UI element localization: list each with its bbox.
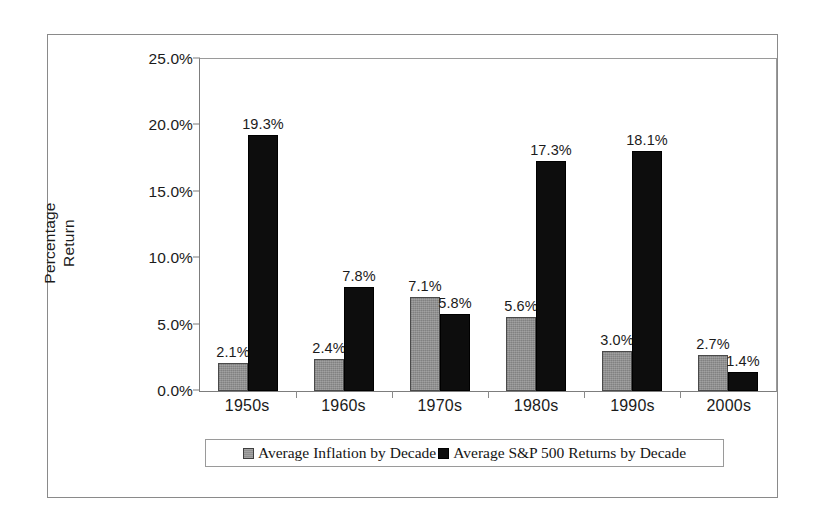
bar-inflation[interactable]: 3.0% — [602, 351, 632, 391]
bar-chart: Percentage Return 0.0%5.0%10.0%15.0%20.0… — [48, 35, 779, 499]
bar-sp500[interactable]: 7.8% — [344, 287, 374, 391]
x-axis-labels: 1950s1960s1970s1980s1990s2000s — [199, 397, 777, 415]
bar-value-label: 1.4% — [726, 353, 759, 369]
bar-sp500[interactable]: 17.3% — [536, 161, 566, 391]
figure-outer-border: Percentage Return 0.0%5.0%10.0%15.0%20.0… — [47, 34, 778, 498]
x-axis-category-label: 1980s — [488, 397, 584, 415]
y-axis-tick-label: 0.0% — [157, 382, 193, 400]
bar-group: 2.4%7.8% — [296, 59, 392, 391]
legend-entry[interactable]: Average Inflation by Decade — [243, 444, 436, 462]
legend-entry[interactable]: Average S&P 500 Returns by Decade — [438, 444, 686, 462]
bar-group: 5.6%17.3% — [488, 59, 584, 391]
y-axis-tick-mark — [193, 390, 200, 391]
legend-label: Average Inflation by Decade — [258, 444, 436, 462]
bar-value-label: 2.7% — [696, 336, 729, 352]
bar-value-label: 17.3% — [530, 142, 572, 158]
bar-value-label: 5.6% — [504, 298, 537, 314]
y-axis-tick-mark — [193, 257, 200, 258]
bar-group: 2.7%1.4% — [680, 59, 776, 391]
bar-pair: 2.4%7.8% — [314, 59, 374, 391]
bar-inflation[interactable]: 5.6% — [506, 317, 536, 391]
x-axis-category-label: 1970s — [392, 397, 488, 415]
bar-pair: 2.7%1.4% — [698, 59, 758, 391]
sp500-swatch — [438, 448, 449, 459]
bar-sp500[interactable]: 5.8% — [440, 314, 470, 391]
y-axis-tick-label: 20.0% — [149, 116, 193, 134]
x-axis-category-label: 1950s — [199, 397, 295, 415]
bar-value-label: 3.0% — [600, 332, 633, 348]
bar-value-label: 18.1% — [626, 132, 668, 148]
y-axis-tick-mark — [193, 323, 200, 324]
bar-value-label: 7.1% — [408, 278, 441, 294]
y-axis-tick-label: 15.0% — [149, 183, 193, 201]
bar-value-label: 2.1% — [216, 344, 249, 360]
bar-inflation[interactable]: 2.4% — [314, 359, 344, 391]
bar-group: 7.1%5.8% — [392, 59, 488, 391]
y-axis-tick-label: 10.0% — [149, 249, 193, 267]
bar-pair: 2.1%19.3% — [218, 59, 278, 391]
bar-inflation[interactable]: 2.7% — [698, 355, 728, 391]
bar-sp500[interactable]: 18.1% — [632, 151, 662, 391]
y-axis-tick-mark — [193, 124, 200, 125]
bar-sp500[interactable]: 1.4% — [728, 372, 758, 391]
x-axis-category-label: 1960s — [295, 397, 391, 415]
bar-value-label: 2.4% — [312, 340, 345, 356]
x-axis-category-label: 1990s — [584, 397, 680, 415]
inflation-swatch — [243, 448, 254, 459]
plot-area: 0.0%5.0%10.0%15.0%20.0%25.0% 2.1%19.3%2.… — [199, 58, 777, 392]
y-axis-tick-mark — [193, 58, 200, 59]
bar-group: 2.1%19.3% — [200, 59, 296, 391]
x-axis-category-label: 2000s — [681, 397, 777, 415]
y-axis-tick-label: 5.0% — [157, 316, 193, 334]
bar-group: 3.0%18.1% — [584, 59, 680, 391]
bar-pair: 5.6%17.3% — [506, 59, 566, 391]
bar-pair: 3.0%18.1% — [602, 59, 662, 391]
bar-value-label: 7.8% — [342, 268, 375, 284]
bar-value-label: 5.8% — [438, 295, 471, 311]
chart-legend: Average Inflation by DecadeAverage S&P 5… — [205, 439, 724, 467]
legend-label: Average S&P 500 Returns by Decade — [453, 444, 686, 462]
bar-pair: 7.1%5.8% — [410, 59, 470, 391]
y-axis-tick-mark — [193, 190, 200, 191]
bars-layer: 2.1%19.3%2.4%7.8%7.1%5.8%5.6%17.3%3.0%18… — [200, 59, 776, 391]
bar-value-label: 19.3% — [242, 116, 284, 132]
y-axis-title: Percentage Return — [40, 153, 78, 333]
bar-inflation[interactable]: 7.1% — [410, 297, 440, 391]
bar-sp500[interactable]: 19.3% — [248, 135, 278, 391]
bar-inflation[interactable]: 2.1% — [218, 363, 248, 391]
y-axis-tick-label: 25.0% — [149, 50, 193, 68]
